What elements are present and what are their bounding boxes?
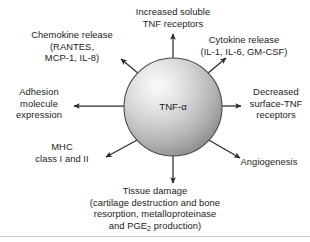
text-line: Angiogenesis [232, 156, 306, 168]
text-line: Cytokine release [181, 34, 307, 46]
text-line: Tissue damage [45, 185, 265, 197]
label-angiogenesis: Angiogenesis [232, 156, 306, 168]
text-segment: and PGE [109, 220, 147, 231]
text-line: Adhesion [6, 86, 72, 98]
label-adhesion-molecule-expression: Adhesion molecule expression [6, 86, 72, 121]
text-line: (RANTES, [8, 41, 136, 53]
label-chemokine-release: Chemokine release (RANTES, MCP-1, IL-8) [8, 29, 136, 64]
label-mhc-class-i-and-ii: MHC class I and II [20, 141, 104, 164]
label-cytokine-release: Cytokine release (IL-1, IL-6, GM-CSF) [181, 34, 307, 57]
text-line: Chemokine release [8, 29, 136, 41]
text-line: MCP-1, IL-8) [8, 52, 136, 64]
text-line: (IL-1, IL-6, GM-CSF) [181, 46, 307, 58]
tnf-alpha-effects-diagram: TNF-α Increased soluble TNF receptors Ch… [0, 0, 310, 242]
text-line: receptors [244, 109, 308, 121]
text-line: TNF receptors [108, 18, 238, 30]
text-line: class I and II [20, 153, 104, 165]
text-line: MHC [20, 141, 104, 153]
text-line: Decreased [244, 86, 308, 98]
text-line: molecule [6, 98, 72, 110]
figure-bottom-rule [0, 236, 310, 237]
text-line-with-subscript: and PGE2 production) [45, 220, 265, 233]
tnf-alpha-label: TNF-α [143, 101, 203, 112]
text-line: Increased soluble [108, 6, 238, 18]
arrow-to-cytokine [207, 58, 226, 74]
subscript-2: 2 [147, 224, 151, 233]
label-tissue-damage: Tissue damage (cartilage destruction and… [45, 185, 265, 232]
text-line: surface-TNF [244, 98, 308, 110]
text-line: resorption, metalloproteinase [45, 208, 265, 220]
label-decreased-surface-tnf-receptors: Decreased surface-TNF receptors [244, 86, 308, 121]
arrow-to-mhc [106, 139, 139, 157]
text-segment: production) [151, 220, 201, 231]
label-increased-soluble-tnf-receptors: Increased soluble TNF receptors [108, 6, 238, 29]
text-line: expression [6, 109, 72, 121]
text-line: (cartilage destruction and bone [45, 197, 265, 209]
